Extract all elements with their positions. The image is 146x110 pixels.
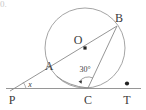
geometry-diagram-svg: B O A P C T x 30° bbox=[0, 0, 146, 110]
center-dot-o bbox=[83, 46, 86, 49]
point-dot-t bbox=[125, 81, 129, 85]
label-point-p: P bbox=[9, 93, 16, 107]
label-angle-x: x bbox=[27, 80, 32, 89]
label-point-c: C bbox=[84, 93, 92, 107]
label-point-b: B bbox=[115, 11, 123, 25]
geometry-figure: 0. B O A P C T x 30° bbox=[0, 0, 146, 110]
label-angle-30: 30° bbox=[79, 65, 90, 74]
label-point-a: A bbox=[45, 59, 54, 73]
label-point-t: T bbox=[123, 93, 131, 107]
label-center-o: O bbox=[74, 33, 83, 47]
angle-arc-at-p bbox=[23, 82, 26, 89]
